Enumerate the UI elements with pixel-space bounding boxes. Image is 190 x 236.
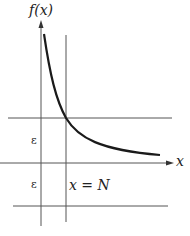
vertical-line-label: x = N <box>69 177 110 193</box>
y-axis-arrow-icon <box>39 20 44 28</box>
epsilon-upper-label: ε <box>31 134 37 147</box>
epsilon-lower-label: ε <box>31 178 37 191</box>
y-axis-label: f(x) <box>29 2 53 18</box>
x-axis-arrow-icon <box>166 161 174 166</box>
x-axis-label: x <box>176 153 184 169</box>
function-curve <box>44 34 160 155</box>
diagram-canvas <box>0 0 190 236</box>
